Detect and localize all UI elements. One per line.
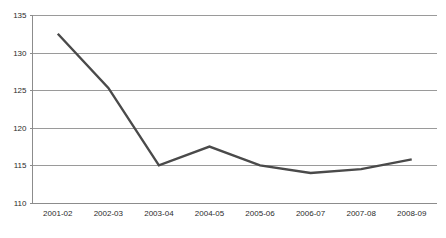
x-tick-label: 2004-05 [195, 209, 225, 218]
x-tick-label: 2007-08 [346, 209, 376, 218]
y-tick-label: 110 [14, 199, 27, 208]
chart-background [0, 0, 446, 238]
x-tick-label: 2003-04 [144, 209, 174, 218]
x-tick-label: 2005-06 [245, 209, 275, 218]
y-tick-label: 135 [13, 11, 27, 20]
chart-canvas: 110115120125130135 2001-022002-032003-04… [0, 0, 446, 238]
line-chart: 110115120125130135 2001-022002-032003-04… [0, 0, 446, 238]
y-tick-label: 125 [13, 86, 27, 95]
y-tick-label: 115 [14, 161, 27, 170]
x-tick-label: 2008-09 [397, 209, 427, 218]
y-tick-label: 120 [13, 124, 27, 133]
x-tick-label: 2006-07 [296, 209, 326, 218]
x-tick-label: 2001-02 [43, 209, 73, 218]
x-tick-label: 2002-03 [94, 209, 124, 218]
y-tick-label: 130 [13, 49, 27, 58]
